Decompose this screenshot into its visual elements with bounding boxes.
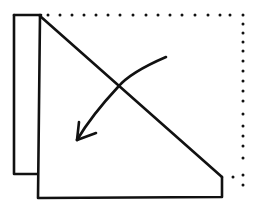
original-square-outline [47, 14, 245, 187]
fold-direction-arrow [77, 57, 166, 140]
folded-paper-shape [38, 15, 222, 198]
diagonal-fold-line [40, 16, 222, 177]
folded-flap-rectangle [14, 15, 41, 174]
folding-diagram [0, 0, 260, 214]
